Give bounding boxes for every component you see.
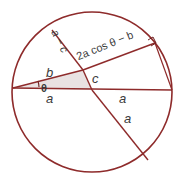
label-a-right: a (119, 92, 126, 105)
label-a-left: a (46, 92, 53, 105)
geometry-figure: a a a b c θ a − c 2a cos θ − b (0, 0, 185, 185)
label-theta: θ (41, 83, 47, 94)
geometry-canvas (0, 0, 185, 185)
label-c: c (92, 72, 99, 85)
main-circle (12, 12, 172, 172)
label-a-diagonal: a (124, 112, 131, 125)
label-b: b (46, 66, 53, 79)
right-angle-leg (155, 43, 172, 90)
